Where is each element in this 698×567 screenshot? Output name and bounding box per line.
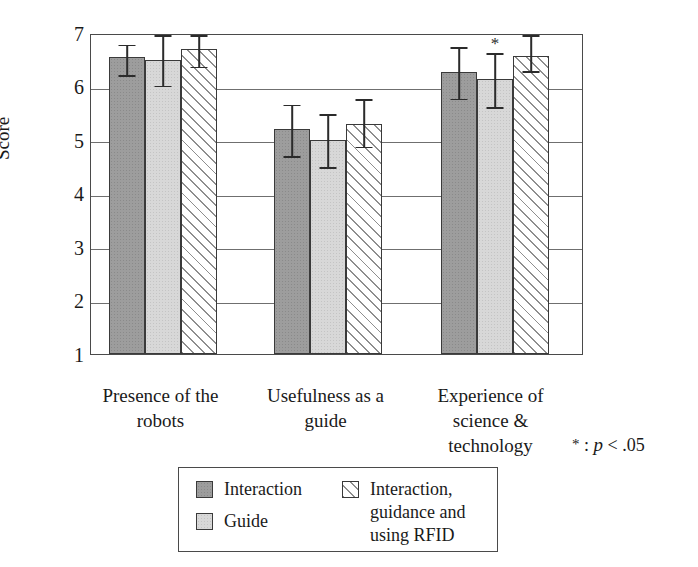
- errorbar-cap-top: [523, 35, 540, 37]
- x-axis-label-group1: Presence of the robots: [73, 383, 248, 433]
- bar-g2-interaction-guidance-rfid: [346, 124, 382, 354]
- y-tick-label-1: 1: [58, 345, 84, 365]
- plot-area: *: [90, 34, 583, 355]
- errorbar-g3-interaction-guidance-rfid: [513, 35, 549, 73]
- legend-label-interaction: Interaction: [224, 478, 302, 501]
- errorbar-g2-interaction: [274, 105, 310, 159]
- bar-g2-interaction: [274, 129, 310, 354]
- p-value-star: *: [572, 436, 580, 452]
- p-value-colon: :: [580, 435, 594, 455]
- errorbar-stem: [494, 53, 496, 109]
- errorbar-cap-top: [155, 35, 172, 37]
- errorbar-stem: [291, 105, 293, 159]
- errorbar-cap-top: [451, 47, 468, 49]
- errorbar-stem: [530, 35, 532, 73]
- y-tick-label-2: 2: [58, 291, 84, 311]
- p-value-footnote: * : p < .05: [572, 434, 645, 456]
- errorbar-cap-bottom: [356, 147, 373, 149]
- errorbar-stem: [363, 99, 365, 148]
- errorbar-cap-top: [191, 35, 208, 37]
- errorbar-g2-interaction-guidance-rfid: [346, 99, 382, 148]
- y-tick-label-3: 3: [58, 238, 84, 258]
- errorbar-cap-bottom: [119, 75, 136, 77]
- errorbar-cap-top: [284, 105, 301, 107]
- y-tick-label-4: 4: [58, 184, 84, 204]
- errorbar-cap-bottom: [191, 67, 208, 69]
- errorbar-cap-bottom: [451, 99, 468, 101]
- legend-entry-interaction-guidance-rfid: Interaction, guidance and using RFID: [342, 478, 465, 547]
- bar-g1-interaction: [109, 57, 145, 354]
- bar-g2-guide: [310, 140, 346, 354]
- errorbar-g1-interaction: [109, 45, 145, 77]
- legend-swatch-guide-icon: [196, 513, 213, 530]
- errorbar-g3-guide: [477, 53, 513, 109]
- y-tick-label-7: 7: [58, 24, 84, 44]
- errorbar-cap-bottom: [523, 71, 540, 73]
- errorbar-cap-top: [119, 45, 136, 47]
- errorbar-cap-bottom: [320, 167, 337, 169]
- significance-star: *: [486, 37, 504, 51]
- legend-label-guide: Guide: [224, 510, 268, 533]
- errorbar-cap-top: [320, 114, 337, 116]
- bar-g3-interaction-guidance-rfid: [513, 56, 549, 354]
- y-axis-title: Score: [0, 117, 14, 160]
- bar-chart-figure: Score 7 6 5 4 3 2 1: [0, 0, 698, 567]
- errorbar-stem: [458, 47, 460, 100]
- errorbar-stem: [126, 45, 128, 77]
- legend-swatch-interaction-icon: [196, 481, 213, 498]
- errorbar-g3-interaction: [441, 47, 477, 100]
- errorbar-g1-interaction-guidance-rfid: [181, 35, 217, 68]
- errorbar-cap-bottom: [155, 86, 172, 88]
- x-axis-label-group3: Experience of science & technology: [403, 383, 578, 458]
- legend-entry-guide: Guide: [196, 510, 268, 533]
- bar-g3-guide: [477, 79, 513, 355]
- legend: Interaction Guide Interaction, guidance …: [178, 467, 498, 552]
- errorbar-cap-top: [487, 53, 504, 55]
- errorbar-stem: [327, 114, 329, 169]
- errorbar-cap-top: [356, 99, 373, 101]
- p-value-symbol: p: [594, 434, 604, 455]
- y-tick-label-5: 5: [58, 131, 84, 151]
- x-axis-label-group2: Usefulness as a guide: [238, 383, 413, 433]
- y-tick-label-6: 6: [58, 77, 84, 97]
- legend-swatch-interaction-guidance-rfid-icon: [342, 481, 359, 498]
- bar-g3-interaction: [441, 72, 477, 354]
- errorbar-g1-guide: [145, 35, 181, 87]
- errorbar-cap-bottom: [284, 156, 301, 158]
- legend-entry-interaction: Interaction: [196, 478, 302, 501]
- bar-g1-guide: [145, 60, 181, 354]
- bar-g1-interaction-guidance-rfid: [181, 49, 217, 354]
- legend-label-interaction-guidance-rfid: Interaction, guidance and using RFID: [370, 478, 465, 547]
- errorbar-g2-guide: [310, 114, 346, 169]
- p-value-condition: < .05: [603, 435, 645, 455]
- errorbar-cap-bottom: [487, 107, 504, 109]
- errorbar-stem: [198, 35, 200, 68]
- errorbar-stem: [162, 35, 164, 87]
